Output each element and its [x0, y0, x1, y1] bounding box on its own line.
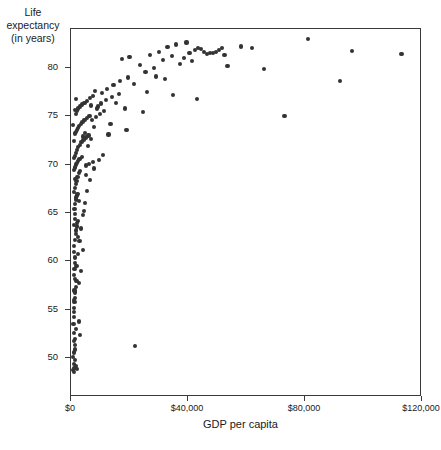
scatter-point: [86, 144, 90, 148]
scatter-point: [98, 112, 102, 116]
scatter-point: [71, 322, 75, 326]
x-axis-tick-label: $80,000: [288, 403, 321, 413]
scatter-point: [81, 213, 85, 217]
scatter-point: [165, 45, 169, 49]
scatter-point: [133, 344, 137, 348]
scatter-point: [78, 169, 82, 173]
scatter-point: [72, 207, 76, 211]
y-axis-title-line-3: (in years): [0, 32, 66, 45]
scatter-point: [178, 62, 182, 66]
y-axis-tick: [65, 260, 70, 261]
scatter-point: [220, 46, 224, 50]
scatter-point: [74, 195, 78, 199]
scatter-point: [73, 202, 77, 206]
x-axis-tick: [421, 396, 422, 401]
scatter-point: [89, 137, 93, 141]
scatter-point: [126, 75, 130, 79]
scatter-point: [114, 101, 118, 105]
scatter-chart-figure: Life expectancy (in years) GDP per capit…: [0, 0, 441, 450]
x-axis-tick-label: $40,000: [171, 403, 204, 413]
scatter-point: [80, 155, 84, 159]
scatter-point: [145, 90, 149, 94]
y-axis-tick-label: 75: [34, 109, 58, 120]
scatter-point: [102, 109, 106, 113]
y-axis-tick: [65, 164, 70, 165]
x-axis-tick: [187, 396, 188, 401]
scatter-point: [190, 59, 194, 63]
scatter-point: [84, 173, 88, 177]
x-axis-tick: [304, 396, 305, 401]
scatter-points-layer: [71, 29, 420, 395]
y-axis-tick-label: 65: [34, 206, 58, 217]
scatter-point: [72, 288, 76, 292]
scatter-point: [120, 57, 124, 61]
scatter-point: [225, 64, 229, 68]
scatter-point: [161, 58, 165, 62]
scatter-point: [350, 49, 354, 53]
y-axis-tick-label: 60: [34, 254, 58, 265]
scatter-point: [73, 212, 77, 216]
scatter-point: [77, 239, 81, 243]
scatter-point: [105, 87, 109, 91]
scatter-point: [78, 333, 82, 337]
x-axis-tick: [70, 396, 71, 401]
scatter-point: [101, 153, 105, 157]
scatter-point: [73, 255, 77, 259]
scatter-point: [79, 226, 83, 230]
scatter-point: [74, 228, 78, 232]
scatter-point: [72, 244, 76, 248]
scatter-point: [106, 132, 110, 136]
scatter-point: [127, 55, 131, 59]
y-axis-tick-label: 80: [34, 61, 58, 72]
x-axis-tick-label: $0: [65, 403, 75, 413]
y-axis-tick: [65, 357, 70, 358]
scatter-point: [72, 331, 76, 335]
scatter-point: [163, 77, 167, 81]
scatter-point: [88, 178, 92, 182]
y-axis-tick-label: 50: [34, 351, 58, 362]
scatter-point: [171, 93, 175, 97]
scatter-point: [73, 358, 77, 362]
scatter-point: [83, 201, 87, 205]
y-axis-tick-label: 55: [34, 303, 58, 314]
scatter-point: [104, 98, 108, 102]
scatter-point: [96, 104, 100, 108]
plot-area: [70, 28, 421, 396]
scatter-point: [187, 51, 191, 55]
scatter-point: [338, 79, 342, 83]
scatter-point: [306, 37, 310, 41]
scatter-point: [100, 91, 104, 95]
scatter-point: [79, 269, 83, 273]
scatter-point: [239, 44, 243, 48]
scatter-point: [195, 97, 199, 101]
y-axis-title: Life expectancy (in years): [0, 6, 66, 45]
scatter-point: [138, 63, 142, 67]
x-axis-tick-label: $120,000: [402, 403, 440, 413]
y-axis-tick: [65, 67, 70, 68]
scatter-point: [117, 92, 121, 96]
y-axis-tick-label: 70: [34, 158, 58, 169]
y-axis-tick: [65, 115, 70, 116]
scatter-point: [72, 315, 76, 319]
scatter-point: [143, 70, 147, 74]
scatter-point: [82, 209, 86, 213]
scatter-point: [222, 53, 226, 57]
scatter-point: [141, 110, 145, 114]
scatter-point: [75, 367, 79, 371]
scatter-point: [97, 158, 101, 162]
scatter-point: [157, 50, 161, 54]
scatter-point: [170, 54, 174, 58]
scatter-point: [77, 199, 81, 203]
scatter-point: [73, 347, 77, 351]
scatter-point: [92, 166, 96, 170]
scatter-point: [75, 221, 79, 225]
scatter-point: [184, 40, 188, 44]
scatter-point: [154, 74, 158, 78]
y-axis-tick: [65, 309, 70, 310]
scatter-point: [124, 128, 128, 132]
scatter-point: [152, 66, 156, 70]
scatter-point: [81, 248, 85, 252]
scatter-point: [89, 103, 93, 107]
scatter-point: [123, 106, 127, 110]
scatter-point: [148, 53, 152, 57]
